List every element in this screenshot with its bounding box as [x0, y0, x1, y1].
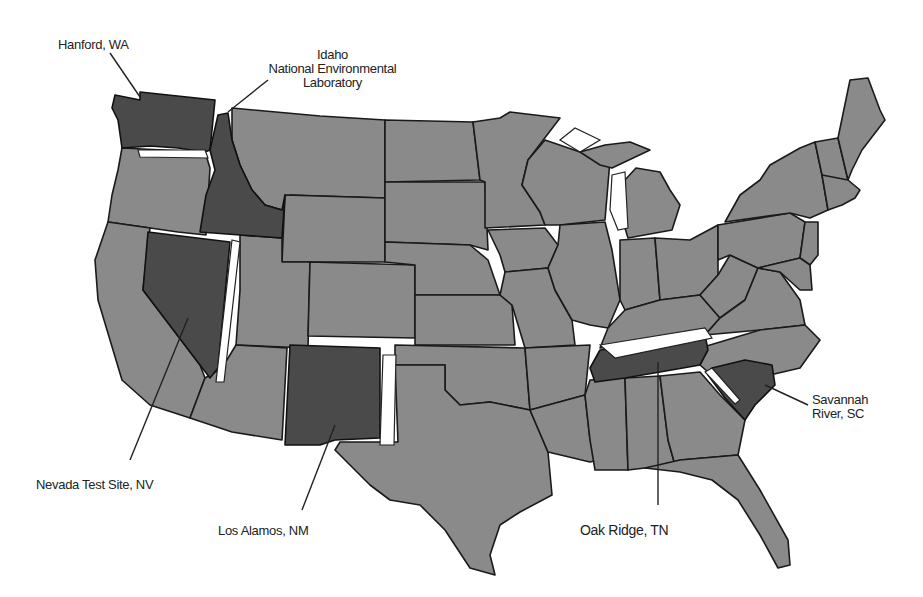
state-colorado	[308, 262, 415, 338]
state-kansas	[415, 295, 515, 345]
label-savannah-line1: Savannah	[812, 393, 868, 407]
label-nevada-test-site: Nevada Test Site, NV	[36, 478, 153, 492]
us-map	[0, 0, 923, 597]
state-maine	[838, 78, 885, 180]
state-iowa	[488, 228, 558, 272]
label-oak-ridge: Oak Ridge, TN	[580, 523, 668, 537]
state-oregon	[108, 148, 210, 235]
leader-savannah	[765, 385, 808, 405]
label-idaho-line1: Idaho	[255, 48, 410, 62]
label-savannah-line2: River, SC	[812, 407, 868, 421]
gap-wa-oregon	[138, 150, 208, 158]
label-savannah-river: Savannah River, SC	[812, 393, 868, 421]
label-idaho-line3: Laboratory	[255, 76, 410, 90]
state-indiana	[620, 238, 660, 310]
label-hanford: Hanford, WA	[58, 38, 129, 52]
label-idaho-line2: National Environmental	[255, 62, 410, 76]
state-north-dakota	[385, 120, 480, 182]
state-new-york	[725, 142, 828, 222]
label-los-alamos: Los Alamos, NM	[218, 524, 308, 538]
state-washington	[112, 92, 215, 152]
leader-hanford	[110, 53, 140, 97]
label-idaho-lab: Idaho National Environmental Laboratory	[255, 48, 410, 90]
state-wyoming	[282, 195, 385, 262]
gap-nm-texas	[380, 355, 396, 445]
state-south-dakota	[385, 182, 488, 250]
state-florida	[645, 455, 790, 568]
state-massachusetts-ri-ct	[822, 175, 860, 210]
lake-michigan	[610, 172, 628, 230]
